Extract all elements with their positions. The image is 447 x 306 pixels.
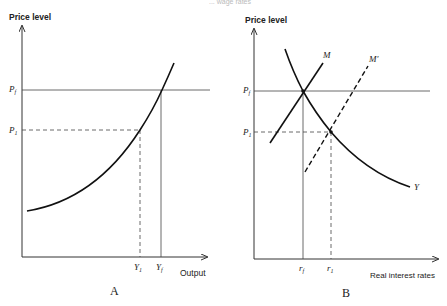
panel-b-y-curve [285, 49, 410, 187]
panel-b-rf-label: rf [299, 263, 306, 274]
panel-b-y-label: Y [414, 182, 420, 192]
panel-b-title: B [342, 286, 350, 300]
panel-b-m-curve [270, 63, 323, 143]
panel-b-equilibrium-point-f [301, 89, 305, 93]
panel-a-y1-label: Y1 [134, 262, 142, 273]
panel-a-title: A [110, 284, 119, 298]
panel-a-x-axis-label: Output [180, 268, 206, 278]
panel-a-p1-label: P1 [8, 125, 18, 136]
diagram-canvas: ... wage rates Price level Pf P1 Y1 Yf O… [0, 0, 447, 306]
panel-b: Price level M M′ Y Pf P1 rf r1 Real inte… [242, 15, 438, 300]
panel-a-yf-label: Yf [156, 262, 164, 273]
panel-b-p1-label: P1 [242, 127, 252, 138]
panel-a-supply-curve [27, 63, 174, 211]
panel-b-equilibrium-point-1 [329, 130, 333, 134]
panel-b-x-axis-label: Real interest rates [370, 271, 435, 280]
panel-b-y-axis-label: Price level [245, 15, 287, 25]
panel-b-r1-label: r1 [327, 263, 334, 274]
cropped-header-text: ... wage rates [209, 0, 252, 6]
panel-a: Price level Pf P1 Y1 Yf Output A [8, 12, 210, 298]
panel-b-m-prime-curve [305, 66, 368, 172]
panel-b-m-prime-label: M′ [368, 54, 379, 64]
panel-b-m-label: M [322, 50, 331, 60]
panel-b-pf-label: Pf [242, 85, 252, 96]
panel-a-y-axis-label: Price level [9, 12, 51, 22]
panel-a-pf-label: Pf [8, 84, 18, 95]
